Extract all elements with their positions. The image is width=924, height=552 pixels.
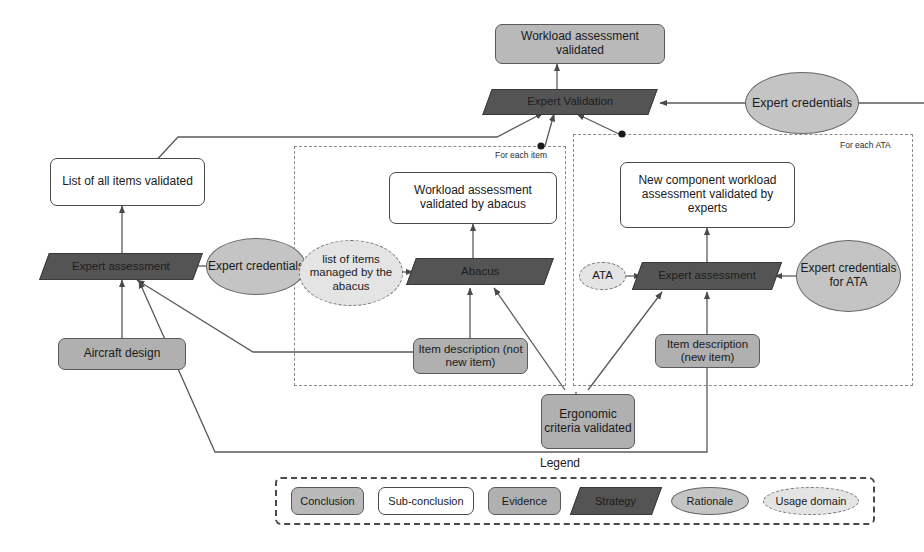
node-item-description-new-label: Item description (new item)	[656, 338, 759, 364]
diagram-canvas: For each item For each ATA	[0, 0, 924, 552]
node-list-of-items-managed-label: list of items managed by the abacus	[300, 253, 402, 293]
node-expert-validation-label: Expert Validation	[527, 95, 613, 108]
legend-item-usage-domain-label: Usage domain	[776, 495, 847, 507]
node-item-description-not-new[interactable]: Item description (not new item)	[413, 338, 528, 374]
node-expert-credentials-ata-label: Expert credentials for ATA	[797, 262, 900, 290]
node-expert-validation[interactable]: Expert Validation	[482, 89, 657, 115]
legend-box: Conclusion Sub-conclusion Evidence Strat…	[275, 477, 875, 525]
node-workload-assessment-validated[interactable]: Workload assessment validated	[495, 24, 665, 64]
legend-item-rationale-label: Rationale	[687, 495, 733, 507]
legend-item-sub-conclusion-label: Sub-conclusion	[388, 495, 463, 507]
node-expert-assessment-ata[interactable]: Expert assessment	[632, 262, 782, 290]
edge-foreachitem-to-validation	[545, 114, 554, 146]
node-workload-assessment-by-abacus[interactable]: Workload assessment validated by abacus	[389, 172, 557, 224]
node-abacus-label: Abacus	[461, 265, 499, 278]
node-expert-credentials-ata[interactable]: Expert credentials for ATA	[796, 240, 901, 312]
edge-foreachata-to-validation	[577, 114, 619, 134]
legend-item-sub-conclusion[interactable]: Sub-conclusion	[378, 487, 474, 515]
node-workload-assessment-by-abacus-label: Workload assessment validated by abacus	[390, 184, 556, 212]
node-list-of-all-items-validated[interactable]: List of all items validated	[50, 158, 205, 206]
node-workload-assessment-validated-label: Workload assessment validated	[496, 30, 664, 58]
node-item-description-new[interactable]: Item description (new item)	[655, 334, 760, 368]
node-expert-assessment-left[interactable]: Expert assessment	[39, 253, 203, 280]
node-list-of-items-managed[interactable]: list of items managed by the abacus	[299, 240, 403, 306]
node-new-component-workload[interactable]: New component workload assessment valida…	[620, 162, 795, 228]
legend-title: Legend	[540, 456, 580, 470]
legend-item-conclusion[interactable]: Conclusion	[291, 487, 364, 515]
node-ergonomic-criteria-validated[interactable]: Ergonomic criteria validated	[541, 394, 635, 449]
legend-item-evidence[interactable]: Evidence	[488, 487, 561, 515]
node-new-component-workload-label: New component workload assessment valida…	[621, 174, 794, 215]
node-expert-credentials-top-label: Expert credentials	[752, 96, 852, 110]
legend-item-rationale[interactable]: Rationale	[671, 487, 749, 515]
legend-item-evidence-label: Evidence	[502, 495, 547, 507]
container-for-each-ata-label: For each ATA	[840, 140, 891, 150]
node-ata-label: ATA	[592, 269, 613, 282]
node-expert-assessment-left-label: Expert assessment	[72, 260, 170, 273]
node-abacus[interactable]: Abacus	[406, 258, 554, 285]
node-list-of-all-items-validated-label: List of all items validated	[62, 175, 193, 189]
node-ata[interactable]: ATA	[579, 262, 626, 290]
container-for-each-item-label: For each item	[495, 150, 547, 160]
node-expert-credentials-left-label: Expert credentials	[208, 260, 304, 274]
node-aircraft-design[interactable]: Aircraft design	[58, 338, 186, 370]
node-expert-credentials-top[interactable]: Expert credentials	[745, 72, 859, 134]
legend-item-strategy[interactable]: Strategy	[570, 487, 662, 515]
node-ergonomic-criteria-validated-label: Ergonomic criteria validated	[542, 408, 634, 436]
node-aircraft-design-label: Aircraft design	[84, 347, 161, 361]
node-expert-credentials-left[interactable]: Expert credentials	[206, 238, 306, 295]
node-expert-assessment-ata-label: Expert assessment	[658, 269, 756, 282]
legend-item-usage-domain[interactable]: Usage domain	[763, 487, 859, 515]
legend-item-conclusion-label: Conclusion	[300, 495, 354, 507]
node-item-description-not-new-label: Item description (not new item)	[414, 343, 527, 369]
legend-item-strategy-label: Strategy	[595, 495, 636, 507]
